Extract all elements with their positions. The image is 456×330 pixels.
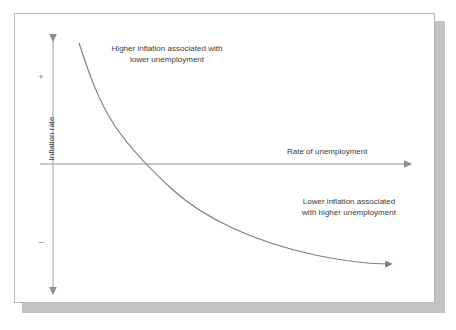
figure-frame: + – Inflation rate Rate of unemployment … (14, 13, 435, 303)
x-axis-label: Rate of unemployment (287, 147, 368, 156)
figure-canvas: + – Inflation rate Rate of unemployment … (0, 0, 456, 330)
annotation-lower-right: Lower inflation associated with higher u… (273, 197, 425, 218)
y-axis-label: Inflation rate (47, 99, 56, 179)
annotation-upper-left: Higher inflation associated with lower u… (87, 44, 247, 65)
y-axis-positive-sign: + (36, 72, 46, 82)
y-axis-negative-sign: – (36, 237, 46, 247)
